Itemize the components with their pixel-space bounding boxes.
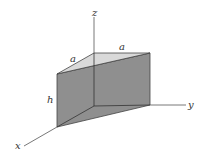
- front-side-face: [57, 53, 150, 127]
- x-axis-label: x: [15, 140, 21, 151]
- x-axis: [24, 127, 57, 146]
- diagram-canvas: z y x a a h: [0, 0, 204, 157]
- height-label: h: [47, 94, 53, 105]
- y-axis-label: y: [187, 99, 194, 110]
- z-axis-label: z: [91, 7, 98, 18]
- edge-a-top-label: a: [119, 41, 125, 52]
- prism-diagram: z y x a a h: [0, 0, 204, 157]
- edge-a-left-label: a: [70, 53, 76, 64]
